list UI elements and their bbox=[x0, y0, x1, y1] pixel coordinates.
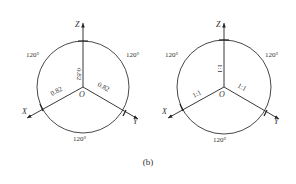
left-x-coefficient: 0.82 bbox=[49, 85, 64, 98]
right-x-coefficient: 1:1 bbox=[191, 88, 203, 99]
right-angle-bottom: 120° bbox=[213, 136, 227, 144]
figure-caption: (b) bbox=[0, 157, 296, 167]
right-origin-label: O bbox=[219, 90, 225, 99]
left-y-coefficient: 0.82 bbox=[96, 81, 111, 94]
right-axonometric-diagram: Z X Y O 1:1 1:1 1:1 120° 120° 120° bbox=[161, 20, 280, 144]
right-angle-top-left: 120° bbox=[165, 51, 179, 59]
right-z-coefficient: 1:1 bbox=[216, 64, 224, 73]
right-y-label: Y bbox=[274, 117, 280, 126]
left-y-axis bbox=[83, 87, 138, 119]
left-x-label: X bbox=[21, 107, 28, 116]
right-z-label: Z bbox=[216, 20, 221, 29]
left-y-label: Y bbox=[133, 117, 139, 126]
right-x-label: X bbox=[161, 107, 168, 116]
left-axonometric-diagram: Z X Y O 0.82 0.82 0.82 120° 120° 120° bbox=[21, 20, 140, 143]
left-angle-top-left: 120° bbox=[26, 51, 40, 59]
left-angle-top-right: 120° bbox=[126, 51, 140, 59]
right-y-coefficient: 1:1 bbox=[236, 82, 248, 93]
right-angle-top-right: 120° bbox=[265, 51, 279, 59]
left-z-coefficient: 0.82 bbox=[75, 68, 83, 81]
left-origin-label: O bbox=[79, 90, 85, 99]
left-angle-bottom: 120° bbox=[73, 135, 87, 143]
left-z-label: Z bbox=[75, 20, 80, 29]
